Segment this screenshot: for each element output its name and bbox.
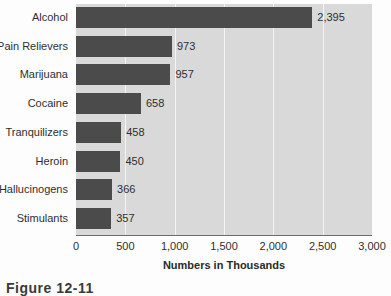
gridline [273, 4, 274, 235]
x-axis-title: Numbers in Thousands [76, 259, 372, 271]
bar-cocaine [76, 93, 141, 114]
x-axis-line [76, 235, 372, 236]
value-label-alcohol: 2,395 [317, 7, 345, 28]
x-tick-label: 2,000 [260, 239, 288, 253]
gridline [224, 4, 225, 235]
bar-heroin [76, 151, 120, 172]
category-label-marijuana: Marijuana [0, 64, 68, 85]
x-tick-label: 500 [116, 239, 134, 253]
bar-tranquilizers [76, 122, 121, 143]
value-label-marijuana: 957 [175, 64, 193, 85]
value-label-tranquilizers: 458 [126, 122, 144, 143]
value-label-cocaine: 658 [146, 93, 164, 114]
bar-alcohol [76, 7, 312, 28]
category-label-heroin: Heroin [0, 151, 68, 172]
gridline [323, 4, 324, 235]
category-label-tranquilizers: Tranquilizers [0, 122, 68, 143]
x-tick-label: 1,500 [210, 239, 238, 253]
bar-pain-relievers [76, 36, 172, 57]
category-label-alcohol: Alcohol [0, 7, 68, 28]
bar-stimulants [76, 208, 111, 229]
value-label-stimulants: 357 [116, 208, 134, 229]
value-label-hallucinogens: 366 [117, 179, 135, 200]
value-label-heroin: 450 [125, 151, 143, 172]
category-label-hallucinogens: Hallucinogens [0, 179, 68, 200]
category-label-stimulants: Stimulants [0, 208, 68, 229]
x-tick-label: 2,500 [309, 239, 337, 253]
category-label-cocaine: Cocaine [0, 93, 68, 114]
x-tick-label: 0 [73, 239, 79, 253]
value-label-pain-relievers: 973 [177, 36, 195, 57]
gridline [175, 4, 176, 235]
category-label-pain-relievers: Pain Relievers [0, 36, 68, 57]
x-tick-label: 1,000 [161, 239, 189, 253]
figure-caption: Figure 12-11 [6, 280, 94, 296]
bar-hallucinogens [76, 179, 112, 200]
plot-area [76, 4, 372, 235]
x-tick-label: 3,000 [358, 239, 386, 253]
bar-marijuana [76, 64, 170, 85]
